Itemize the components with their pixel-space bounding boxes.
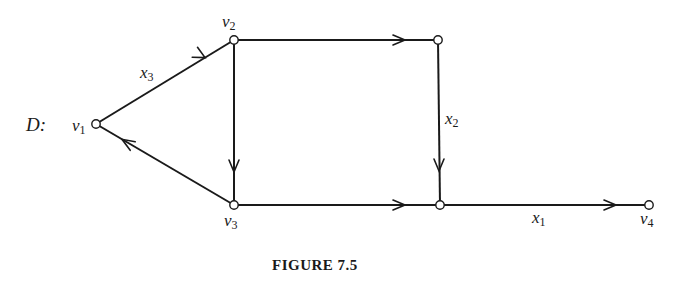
label-x2: x2	[444, 109, 459, 130]
node-v2	[230, 36, 238, 44]
label-v2: v2	[222, 12, 236, 33]
graph-name: D:	[25, 114, 46, 135]
node-v4	[645, 201, 653, 209]
node-bottom-right	[436, 201, 444, 209]
node-v1	[92, 120, 100, 128]
label-v4: v4	[640, 209, 654, 230]
label-v1: v1	[72, 116, 86, 137]
nodes	[92, 36, 653, 209]
label-x3: x3	[139, 63, 154, 84]
node-v3	[230, 201, 238, 209]
label-x1: x1	[531, 208, 546, 229]
label-v3: v3	[224, 211, 238, 232]
edge-v3-v1	[96, 124, 234, 205]
figure-caption: FIGURE 7.5	[272, 257, 358, 273]
edges	[96, 40, 649, 205]
arrowhead-v1-v2-icon	[192, 47, 205, 57]
directed-graph-diagram: D: v1 v2 v3 v4 x3	[0, 0, 676, 281]
node-top-right	[434, 36, 442, 44]
edge-top-right-bottom-right	[438, 40, 440, 205]
edge-v1-v2	[96, 40, 234, 124]
